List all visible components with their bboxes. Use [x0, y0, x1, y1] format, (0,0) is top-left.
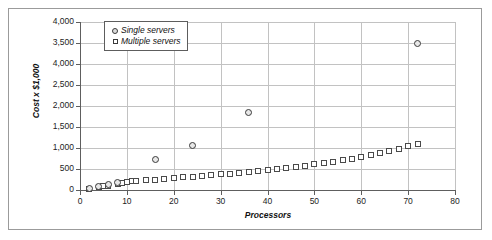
gridline-vertical	[268, 22, 269, 190]
data-point-multiple-servers	[293, 164, 299, 170]
data-point-multiple-servers	[340, 157, 346, 163]
data-point-multiple-servers	[208, 172, 214, 178]
legend-item-multiple-servers: Multiple servers	[109, 36, 181, 47]
data-point-multiple-servers	[255, 168, 261, 174]
x-tick-mark	[80, 191, 81, 195]
gridline-vertical	[221, 22, 222, 190]
y-tick-label: 3,500	[36, 38, 74, 47]
x-tick-mark	[268, 191, 269, 195]
data-point-multiple-servers	[152, 177, 158, 183]
y-tick-mark	[76, 64, 80, 65]
y-tick-label: 2,500	[36, 80, 74, 89]
data-point-multiple-servers	[143, 177, 149, 183]
data-point-multiple-servers	[190, 174, 196, 180]
x-tick-label: 20	[159, 196, 189, 206]
x-tick-label: 70	[393, 196, 423, 206]
data-point-multiple-servers	[180, 174, 186, 180]
y-tick-label: 2,000	[36, 101, 74, 110]
data-point-multiple-servers	[358, 154, 364, 160]
data-point-multiple-servers	[246, 169, 252, 175]
y-tick-mark	[76, 106, 80, 107]
data-point-multiple-servers	[171, 175, 177, 181]
y-axis-line	[80, 22, 81, 191]
x-tick-mark	[314, 191, 315, 195]
data-point-multiple-servers	[218, 171, 224, 177]
data-point-single-servers	[95, 183, 102, 190]
data-point-multiple-servers	[265, 167, 271, 173]
gridline-vertical	[455, 22, 456, 190]
y-tick-label: 1,500	[36, 122, 74, 131]
data-point-multiple-servers	[161, 176, 167, 182]
x-tick-label: 30	[206, 196, 236, 206]
data-point-single-servers	[414, 40, 421, 47]
data-point-multiple-servers	[349, 156, 355, 162]
plot-wrapper: Cost x $1,000 Processors Single servers …	[0, 0, 492, 240]
x-tick-label: 0	[65, 196, 95, 206]
x-axis-title: Processors	[80, 210, 456, 220]
data-point-multiple-servers	[321, 160, 327, 166]
square-marker-icon	[109, 39, 121, 44]
gridline-vertical	[408, 22, 409, 190]
x-tick-label: 80	[440, 196, 470, 206]
circle-marker-icon	[109, 28, 121, 34]
data-point-single-servers	[105, 181, 112, 188]
data-point-multiple-servers	[199, 173, 205, 179]
y-tick-label: 0	[36, 185, 74, 194]
legend-label: Single servers	[121, 25, 175, 36]
y-tick-mark	[76, 85, 80, 86]
data-point-multiple-servers	[368, 152, 374, 158]
data-point-single-servers	[245, 109, 252, 116]
y-tick-mark	[76, 169, 80, 170]
legend-label: Multiple servers	[121, 36, 181, 47]
chart-figure: Cost x $1,000 Processors Single servers …	[0, 0, 492, 240]
x-tick-mark	[174, 191, 175, 195]
data-point-multiple-servers	[133, 178, 139, 184]
data-point-multiple-servers	[236, 170, 242, 176]
data-point-multiple-servers	[377, 150, 383, 156]
data-point-multiple-servers	[330, 159, 336, 165]
y-tick-label: 500	[36, 164, 74, 173]
data-point-multiple-servers	[283, 165, 289, 171]
y-tick-mark	[76, 43, 80, 44]
x-tick-mark	[127, 191, 128, 195]
legend-item-single-servers: Single servers	[109, 25, 181, 36]
x-tick-mark	[361, 191, 362, 195]
y-tick-label: 1,000	[36, 143, 74, 152]
y-tick-mark	[76, 148, 80, 149]
data-point-multiple-servers	[302, 163, 308, 169]
data-point-multiple-servers	[386, 148, 392, 154]
data-point-multiple-servers	[415, 141, 421, 147]
x-tick-mark	[408, 191, 409, 195]
y-tick-mark	[76, 22, 80, 23]
data-point-single-servers	[152, 156, 159, 163]
data-point-multiple-servers	[274, 166, 280, 172]
data-point-multiple-servers	[311, 161, 317, 167]
gridline-vertical	[361, 22, 362, 190]
x-tick-label: 50	[299, 196, 329, 206]
data-point-multiple-servers	[396, 146, 402, 152]
data-point-single-servers	[86, 185, 93, 192]
x-tick-mark	[455, 191, 456, 195]
y-tick-label: 4,000	[36, 17, 74, 26]
y-tick-mark	[76, 127, 80, 128]
x-tick-mark	[221, 191, 222, 195]
x-tick-label: 40	[253, 196, 283, 206]
x-tick-label: 60	[346, 196, 376, 206]
x-tick-label: 10	[112, 196, 142, 206]
data-point-multiple-servers	[227, 171, 233, 177]
chart-legend: Single servers Multiple servers	[104, 21, 188, 51]
data-point-multiple-servers	[405, 143, 411, 149]
y-tick-label: 4,000	[36, 59, 74, 68]
